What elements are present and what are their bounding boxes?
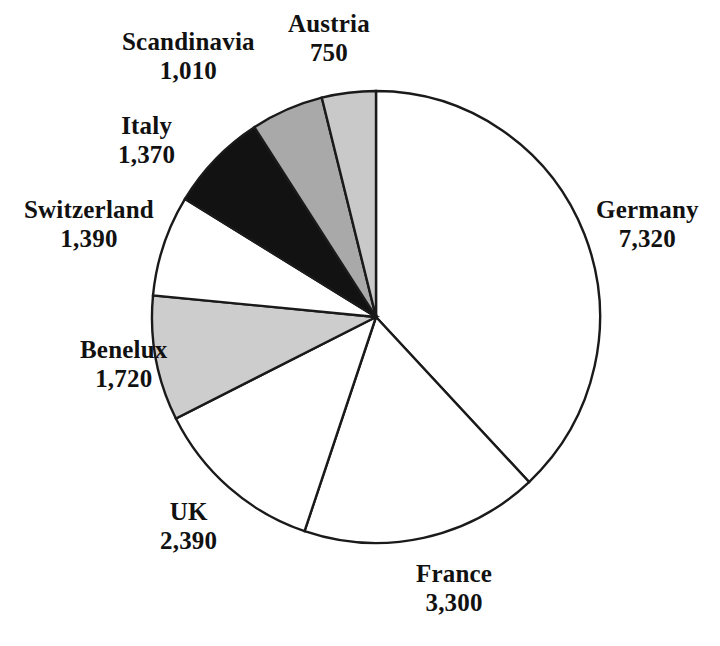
slice-label-name: Italy [118,112,175,141]
slice-label-value: 1,010 [122,57,255,86]
slice-label-value: 1,720 [80,365,168,394]
slice-label-name: Scandinavia [122,28,255,57]
pie-chart-canvas [0,0,720,646]
slice-label-name: France [416,560,492,589]
slice-label-austria: Austria750 [288,10,370,67]
slice-label-value: 1,390 [24,225,154,254]
slice-label-value: 2,390 [160,527,217,556]
slice-label-italy: Italy1,370 [118,112,175,169]
slice-label-name: Switzerland [24,196,154,225]
slice-label-name: Austria [288,10,370,39]
slice-label-name: UK [160,498,217,527]
slice-label-benelux: Benelux1,720 [80,336,168,393]
slice-label-value: 3,300 [416,589,492,618]
pie-chart-figure: Germany7,320France3,300UK2,390Benelux1,7… [0,0,720,646]
slice-label-uk: UK2,390 [160,498,217,555]
slice-label-name: Benelux [80,336,168,365]
slice-label-switzerland: Switzerland1,390 [24,196,154,253]
slice-label-scandinavia: Scandinavia1,010 [122,28,255,85]
slice-label-name: Germany [596,196,699,225]
slice-label-germany: Germany7,320 [596,196,699,253]
slice-label-value: 7,320 [596,225,699,254]
slice-label-value: 1,370 [118,141,175,170]
pie-slices-layer [152,91,600,543]
slice-label-value: 750 [288,39,370,68]
slice-label-france: France3,300 [416,560,492,617]
